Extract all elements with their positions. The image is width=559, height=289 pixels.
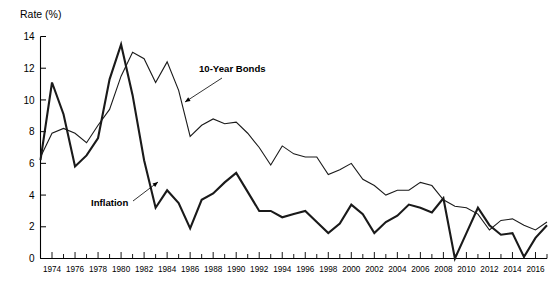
x-tick-label: 1980 <box>112 265 131 274</box>
y-tick-label: 10 <box>23 95 35 106</box>
x-tick-label: 2012 <box>480 265 499 274</box>
y-tick-label: 8 <box>29 126 35 137</box>
x-tick-label: 2000 <box>342 265 361 274</box>
x-tick-label: 2016 <box>526 265 545 274</box>
x-tick-label: 1996 <box>296 265 315 274</box>
annotation-arrowhead-icon <box>153 182 158 187</box>
x-tick-label: 2010 <box>457 265 476 274</box>
x-tick-label: 1998 <box>319 265 338 274</box>
y-tick-label: 12 <box>23 63 35 74</box>
data-series-group <box>41 44 548 258</box>
annotation-label-10-year-bonds: 10-Year Bonds <box>199 63 266 74</box>
annotation-label-inflation: Inflation <box>91 197 128 208</box>
x-tick-label: 1988 <box>204 265 223 274</box>
chart-canvas: Rate (%) 02468101214 1974197619781980198… <box>0 0 559 289</box>
x-tick-label: 2004 <box>388 265 407 274</box>
x-tick-label: 1978 <box>89 265 108 274</box>
annotation-leader-line <box>185 78 222 102</box>
x-tick-label: 1986 <box>181 265 200 274</box>
x-tick-label: 1984 <box>158 265 177 274</box>
x-tick-label: 1976 <box>66 265 85 274</box>
y-tick-label: 6 <box>29 158 35 169</box>
series-line-inflation <box>41 44 548 258</box>
rate-chart: Rate (%) 02468101214 1974197619781980198… <box>0 0 559 289</box>
x-tick-label: 1974 <box>43 265 62 274</box>
x-tick-label: 2006 <box>411 265 430 274</box>
y-axis-title: Rate (%) <box>20 8 61 20</box>
x-tick-label: 1990 <box>227 265 246 274</box>
x-tick-label: 1992 <box>250 265 269 274</box>
series-annotations: 10-Year BondsInflation <box>91 63 266 208</box>
annotation-arrowhead-icon <box>185 97 191 102</box>
y-tick-label: 4 <box>29 190 35 201</box>
x-tick-label: 2002 <box>365 265 384 274</box>
x-tick-label: 1994 <box>273 265 292 274</box>
x-tick-label: 2014 <box>503 265 522 274</box>
x-axis-ticks: 1974197619781980198219841986198819901992… <box>41 252 548 274</box>
x-tick-label: 1982 <box>135 265 154 274</box>
x-tick-label: 2008 <box>434 265 453 274</box>
y-tick-label: 2 <box>29 221 35 232</box>
y-tick-label: 14 <box>23 31 35 42</box>
y-tick-label: 0 <box>29 253 35 264</box>
